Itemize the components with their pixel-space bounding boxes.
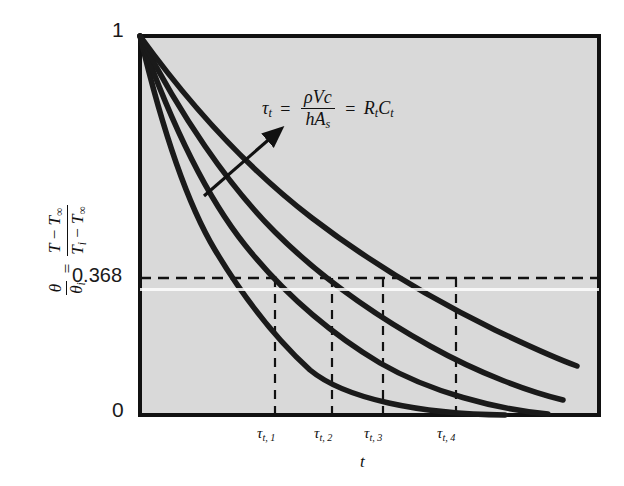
- y-axis-temp-num: T − T∞: [46, 205, 68, 256]
- y-axis-label: θ θi = T − T∞ Ti − T∞: [0, 190, 148, 310]
- y-axis-theta-den: θi: [67, 279, 88, 297]
- equation-equals-2: =: [345, 99, 355, 119]
- equation-equals-1: =: [280, 99, 290, 119]
- x-axis-label: t: [360, 452, 365, 472]
- equation-C: C: [378, 98, 390, 118]
- y-axis-equals: =: [58, 264, 78, 274]
- y-tick-label-1: 1: [112, 18, 124, 42]
- y-axis-theta-ratio: θ θi: [47, 279, 88, 297]
- equation-C-sub: t: [390, 106, 393, 120]
- equation-denominator: hAs: [302, 109, 333, 131]
- time-constant-equation: τt = ρVc hAs = RtCt: [262, 88, 394, 131]
- equation-tau-sub: t: [268, 106, 271, 120]
- equation-numerator: ρVc: [301, 88, 335, 109]
- x-tick-label-tau4: τt, 4: [437, 425, 455, 443]
- equation-R: R: [364, 98, 375, 118]
- y-axis-theta-num: θ: [47, 281, 67, 295]
- x-tick-label-tau2: τt, 2: [314, 425, 332, 443]
- figure-container: 1 0.368 0 θ θi = T − T∞ Ti − T∞ τt =: [0, 0, 624, 486]
- y-axis-temperature-ratio: T − T∞ Ti − T∞: [46, 203, 89, 257]
- y-tick-label-0: 0: [112, 398, 124, 422]
- y-axis-temp-den: Ti − T∞: [68, 203, 89, 257]
- x-tick-label-tau3: τt, 3: [364, 425, 382, 443]
- scan-artifact-band: [140, 288, 599, 291]
- equation-fraction: ρVc hAs: [301, 88, 335, 131]
- x-tick-label-tau1: τt, 1: [257, 425, 275, 443]
